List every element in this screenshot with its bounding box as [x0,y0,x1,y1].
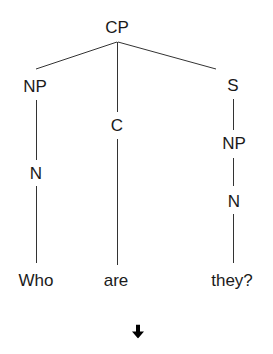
edge-cp-s [118,42,216,69]
node-np-right: NP [222,135,246,152]
edge-cp-np [36,42,117,69]
word-are: are [104,272,129,289]
node-cp: CP [105,19,129,36]
word-who: Who [19,272,54,289]
node-np-left: NP [23,78,47,95]
down-arrow-icon [132,325,144,342]
node-n-right: N [228,193,240,210]
node-c: C [111,117,123,134]
node-s: S [227,77,238,94]
node-n-left: N [30,165,42,182]
word-they: they? [211,272,253,289]
